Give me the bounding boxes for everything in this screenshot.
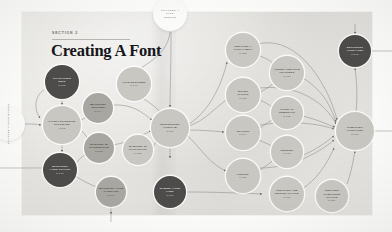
node-label: IMPORTING YOURTYPEFACEP.174 [96,187,125,197]
chapter-left-label: CHAPTER 3 TYPE BASICS [6,104,9,145]
node-label: MANAGINGYOUR GLYPHSP.148 [48,165,72,175]
diagram-node: COMPILINGYOUR FONTP.170 [336,112,374,150]
book-spread-photo: SECTION 2 Creating A Font [0,0,392,232]
section-label: SECTION 2 [52,31,78,35]
node-label: TYPE DESIGNERP.140 [120,81,147,88]
diagram-node: SPACINGP.164 [226,116,260,150]
diagram-node: WORKING INPHOTOSHOPP.138 [123,135,153,165]
diagram-node: INTRODUCINGFONTLABP.116 [151,109,189,147]
node-label: INTRODUCINGFONTLABP.116 [158,123,182,133]
node-page: P.112 [49,127,76,130]
diagram-node: HINTINGP.186 [226,159,260,193]
node-label: BOLDSITALICSP.162 [235,90,250,100]
node-page: P.156 [318,199,346,202]
diagram-node: KERNINGP.180 [271,136,303,168]
node-page: P.176 [274,75,300,78]
node-page: P.148 [50,172,70,175]
node-label: TYPES OFNUMERALSP.168 [277,108,297,118]
node-label: WORKING INILLUSTRATORP.132 [87,143,111,153]
diagram-node: WORKING INILLUSTRATORP.132 [84,133,114,163]
node-page: P.174 [98,194,123,197]
node-label: KERNINGP.180 [278,149,295,156]
node-label: CREATING ANDEDITING GLYPHSP.150 [273,189,301,199]
node-page: P.168 [279,115,295,118]
node-label: NAMING YOURFONTP.184 [158,187,182,197]
node-page: P.132 [89,150,109,153]
node-page: P.144 [90,110,106,113]
diagram-node: TYPE DESIGNERP.140 [117,67,151,101]
node-page: P.116 [160,130,180,133]
diagram-node: EXPORTINGYOUR FONTP.192 [339,35,371,67]
node-label: CREATING ATYPE FAMILYP.158 [232,45,255,55]
node-page: P.164 [237,133,250,136]
node-label: WORKING INPHOTOSHOPP.138 [127,145,149,155]
node-page: P.158 [234,52,253,55]
node-page: P.138 [129,152,147,155]
diagram-node: TYPES OFNUMERALSP.168 [271,97,303,129]
diagram-node: CREATING ATYPE FAMILYP.158 [226,33,260,67]
diagram-node: IMPORTING YOURTYPEFACEP.174 [96,177,126,207]
node-page: P.140 [122,84,145,87]
diagram-node: IMPORTINGVECTORSP.144 [83,93,113,123]
node-label: CREATING COMPOSITEGLYPHSP.156 [316,189,348,202]
diagram-node: TYPEFACE DESIGNSOFTWAREP.112 [43,106,81,144]
diagram-node: CREATING ANDEDITING GLYPHSP.150 [270,177,304,211]
node-label: EXPORTINGYOUR FONTP.192 [345,46,366,56]
node-label: CHARACTERSETSP.108 [51,77,73,87]
node-label: HINTINGP.186 [235,173,251,180]
page-title: Creating A Font [51,41,161,61]
node-page: P.180 [280,152,293,155]
diagram-node: BOLDSITALICSP.162 [226,78,260,112]
node-page: P.192 [347,53,364,56]
node-page: P.150 [275,196,299,199]
node-label: SPACINGP.164 [235,130,252,137]
diagram-node: CREATING COMPOSITEGLYPHSP.156 [316,180,348,212]
node-page: P.184 [160,194,180,197]
title-rule [52,39,130,40]
diagram-node: MANAGINGYOUR GLYPHSP.148 [43,153,77,187]
diagram-node: NAMING YOURFONTP.184 [154,176,186,208]
diagram-node: ADDING CREATIVEFEATURESP.176 [270,56,304,90]
node-label: ADDING CREATIVEFEATURESP.176 [272,68,302,78]
node-page: P.162 [237,97,248,100]
diagram-node: CHARACTERSETSP.108 [45,65,79,99]
node-page: P.186 [237,176,249,179]
chapter-top-label: CHAPTER 4 TYPE DESIGN [161,9,179,19]
node-label: IMPORTINGVECTORSP.144 [88,103,108,113]
node-page: P.170 [347,133,364,136]
node-label: TYPEFACE DESIGNSOFTWAREP.112 [47,120,78,130]
node-page: P.108 [53,84,71,87]
node-label: COMPILINGYOUR FONTP.170 [345,126,366,136]
